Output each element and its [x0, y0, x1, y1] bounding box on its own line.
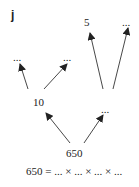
node-mid-right: ... — [101, 104, 109, 115]
arrow-10-to-leaf-lr — [44, 64, 67, 89]
arrow-root-to-mid-right — [84, 115, 103, 143]
node-root: 650 — [66, 148, 83, 159]
node-leaf-lr: ... — [63, 52, 71, 63]
node-leaf-rl: 5 — [84, 17, 90, 28]
arrow-mid-right-to-5 — [90, 33, 103, 89]
node-mid-left: 10 — [33, 97, 44, 108]
arrow-root-to-10 — [46, 113, 70, 143]
equation: 650 = ... × ... × ... × ... — [26, 166, 122, 177]
arrow-10-to-leaf-ll — [20, 64, 28, 89]
arrow-mid-right-to-leaf-rr — [113, 28, 128, 89]
node-leaf-rr: ... — [122, 17, 130, 28]
node-leaf-ll: ... — [13, 52, 21, 63]
